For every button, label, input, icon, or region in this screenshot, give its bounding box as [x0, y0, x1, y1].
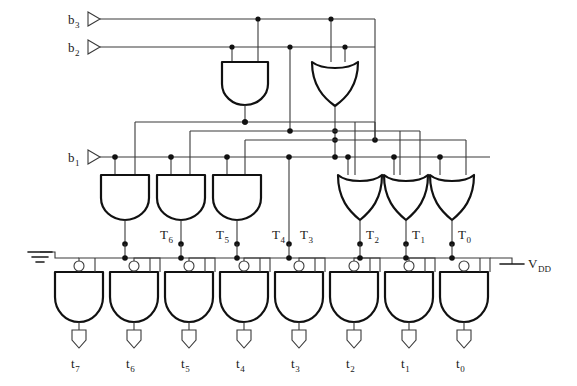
routing-bus-b — [190, 128, 420, 175]
t-label-T2: T2 — [366, 226, 379, 245]
t-label-T6: T6 — [160, 226, 173, 245]
output-label-t3: t3 — [291, 355, 300, 374]
output-label-t1: t1 — [401, 355, 410, 374]
output-label-t4: t4 — [236, 355, 245, 374]
nand-gate-t3 — [275, 258, 323, 348]
gate-and-top — [222, 62, 268, 125]
t-label-T4: T4 — [272, 226, 285, 245]
output-label-t2: t2 — [346, 355, 355, 374]
output-label-t6: t6 — [126, 355, 135, 374]
output-label-t7: t7 — [71, 355, 80, 374]
t-to-output-routing — [79, 244, 490, 272]
t-label-T0: T0 — [458, 226, 471, 245]
and-top-fanout — [355, 122, 400, 175]
circuit-diagram: .w{stroke:#3a3a3a;stroke-width:1.1;fill:… — [0, 0, 577, 386]
output-label-t5: t5 — [181, 355, 190, 374]
nand-gate-t4 — [220, 258, 268, 348]
nand-gate-t6 — [110, 258, 158, 348]
input-label-b1: b1 — [68, 149, 80, 168]
nand-gate-t1 — [385, 258, 433, 348]
output-label-t0: t0 — [456, 355, 465, 374]
schematic-svg: .w{stroke:#3a3a3a;stroke-width:1.1;fill:… — [0, 0, 577, 386]
nand-gate-t2 — [330, 258, 378, 348]
gate-or-top — [312, 62, 358, 160]
t-label-T5: T5 — [216, 226, 229, 245]
input-label-b2: b2 — [68, 39, 80, 58]
gate-and-t6 — [101, 175, 149, 247]
nand-gate-t5 — [165, 258, 213, 348]
vdd-symbol — [490, 258, 524, 264]
routing-bus-a — [135, 119, 375, 157]
nand-gate-t0 — [440, 258, 488, 348]
input-label-b3: b3 — [68, 11, 80, 30]
nand-gate-t7 — [55, 258, 103, 348]
vdd-label: VDD — [528, 255, 551, 274]
ground-symbol — [28, 252, 79, 262]
t-label-T3: T3 — [300, 226, 313, 245]
t-label-T1: T1 — [412, 226, 425, 245]
